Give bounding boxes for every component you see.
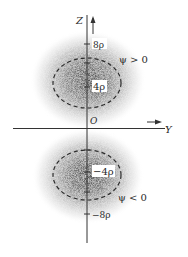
- tick-label-8rho: 8ρ: [93, 40, 104, 50]
- y-axis-label: Y: [165, 124, 173, 135]
- tick-label-neg-8rho: −8ρ: [92, 210, 111, 220]
- z-axis-label: Z: [75, 15, 84, 26]
- origin-label: O: [90, 116, 98, 126]
- upper-cloud: [30, 30, 146, 130]
- psi-negative-label: ψ < 0: [118, 192, 147, 203]
- orbital-diagram: Z Y O 8ρ 4ρ −4ρ −8ρ ψ > 0 ψ < 0: [0, 0, 188, 257]
- tick-label-neg-4rho: −4ρ: [93, 166, 114, 177]
- upper-lobe: [30, 30, 146, 130]
- psi-positive-label: ψ > 0: [119, 54, 148, 65]
- y-arrow-icon: [147, 120, 162, 125]
- lower-lobe: [32, 128, 144, 224]
- tick-label-4rho: 4ρ: [93, 81, 105, 92]
- lower-cloud: [32, 128, 144, 224]
